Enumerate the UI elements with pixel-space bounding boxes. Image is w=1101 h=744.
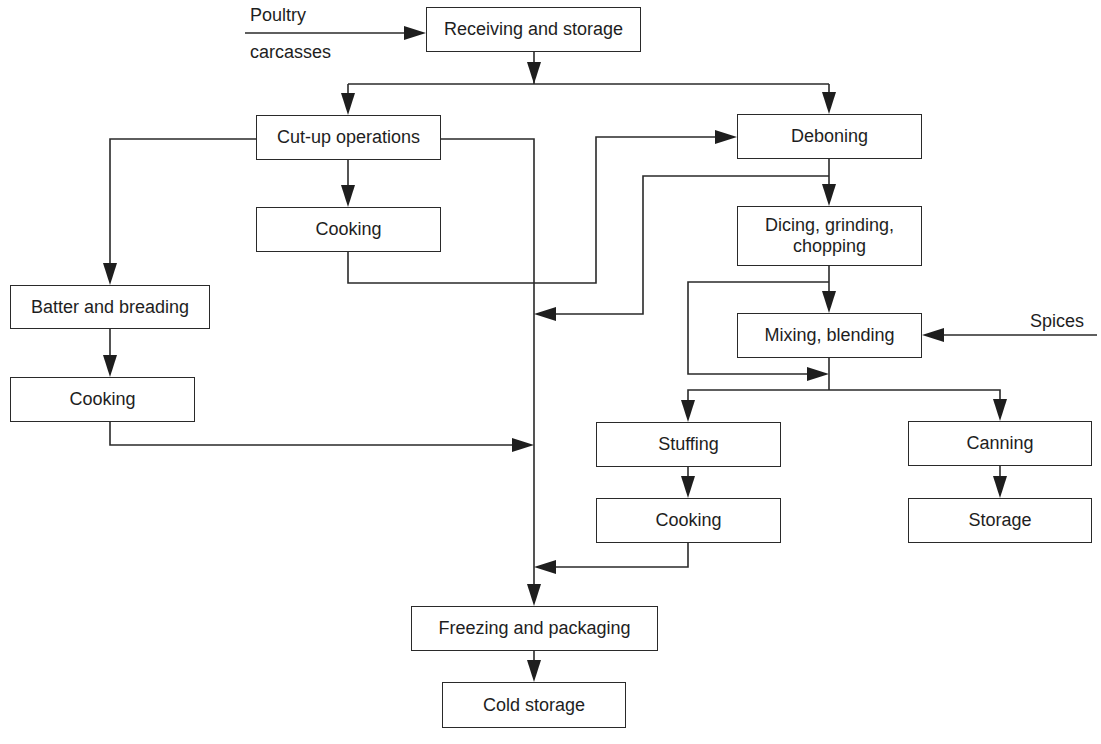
- arrowhead-icon: [404, 26, 426, 40]
- connector-cookingstuffing-trunk: [550, 543, 688, 567]
- node-cooking-batter: Cooking: [10, 377, 195, 422]
- node-mixing-blending: Mixing, blending: [737, 313, 922, 358]
- node-cut-up-operations: Cut-up operations: [256, 115, 441, 160]
- arrowhead-icon: [822, 92, 836, 114]
- node-cooking-cutup: Cooking: [256, 207, 441, 252]
- arrowhead-icon: [681, 476, 695, 498]
- arrowhead-icon: [527, 62, 541, 84]
- arrowhead-icon: [103, 355, 117, 377]
- arrowhead-icon: [103, 263, 117, 285]
- arrowhead-icon: [993, 476, 1007, 498]
- node-dicing-grinding-chopping: Dicing, grinding, chopping: [737, 206, 922, 266]
- node-deboning: Deboning: [737, 114, 922, 159]
- node-receiving-storage: Receiving and storage: [426, 7, 641, 52]
- input-label-carcasses: carcasses: [250, 42, 331, 63]
- arrowhead-icon: [534, 560, 556, 574]
- connector-mixing-split: [688, 390, 1000, 407]
- arrowhead-icon: [922, 328, 944, 342]
- arrowhead-icon: [341, 93, 355, 115]
- node-cold-storage: Cold storage: [442, 682, 626, 728]
- input-label-spices: Spices: [1030, 311, 1084, 332]
- input-label-poultry: Poultry: [250, 5, 306, 26]
- arrowhead-icon: [807, 367, 829, 381]
- node-stuffing: Stuffing: [596, 422, 781, 467]
- connector-cutup-trunk: [441, 139, 534, 590]
- node-canning: Canning: [908, 421, 1092, 466]
- arrowhead-icon: [822, 291, 836, 313]
- node-batter-breading: Batter and breading: [10, 285, 210, 329]
- arrowhead-icon: [681, 400, 695, 422]
- arrowhead-icon: [822, 184, 836, 206]
- flowchart-canvas: Poultry carcasses Spices Receiving and s…: [0, 0, 1101, 744]
- arrowhead-icon: [527, 660, 541, 682]
- node-freezing-packaging: Freezing and packaging: [411, 606, 658, 651]
- arrowhead-icon: [715, 130, 737, 144]
- connector-cookingbatter-trunk: [110, 422, 518, 445]
- node-storage: Storage: [908, 498, 1092, 543]
- connector-cutup-batter: [110, 139, 256, 270]
- arrowhead-icon: [993, 399, 1007, 421]
- node-cooking-stuffing: Cooking: [596, 498, 781, 543]
- arrowhead-icon: [341, 185, 355, 207]
- arrowhead-icon: [512, 438, 534, 452]
- arrowhead-icon: [527, 584, 541, 606]
- arrowhead-icon: [534, 307, 556, 321]
